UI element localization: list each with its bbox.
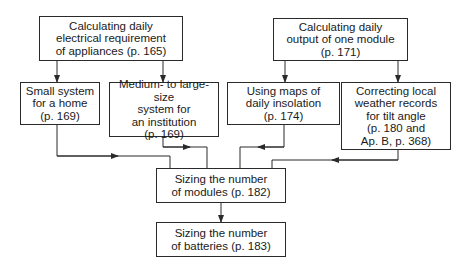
node-label: Using maps of daily insolation (p. 174)	[246, 85, 321, 123]
node-label: Calculating daily output of one module (…	[286, 21, 394, 59]
node-sizing-modules: Sizing the number of modules (p. 182)	[156, 168, 286, 203]
node-insolation-maps: Using maps of daily insolation (p. 174)	[227, 82, 340, 125]
node-label: Small system for a home (p. 169)	[26, 85, 94, 123]
node-label: Correcting local weather records for til…	[355, 85, 437, 148]
node-medium-system: Medium- to large-size system for an inst…	[109, 82, 219, 137]
node-weather-records: Correcting local weather records for til…	[341, 82, 451, 150]
node-small-system: Small system for a home (p. 169)	[20, 82, 100, 125]
node-daily-output: Calculating daily output of one module (…	[273, 18, 408, 61]
node-label: Sizing the number of batteries (p. 183)	[171, 227, 271, 252]
node-label: Sizing the number of modules (p. 182)	[171, 173, 270, 198]
node-daily-requirement: Calculating daily electrical requirement…	[39, 16, 183, 61]
node-label: Medium- to large-size system for an inst…	[110, 78, 218, 141]
node-label: Calculating daily electrical requirement…	[56, 20, 167, 58]
node-sizing-batteries: Sizing the number of batteries (p. 183)	[156, 222, 286, 257]
